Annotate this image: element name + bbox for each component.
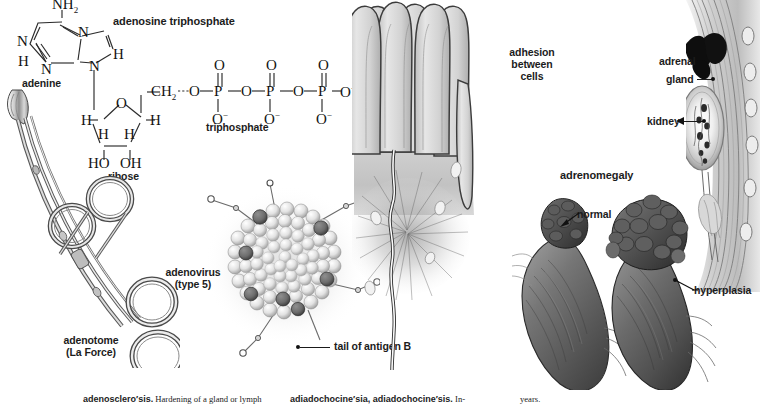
- adenotome-figure: [0, 78, 180, 368]
- footer-column-3: years.: [520, 394, 540, 404]
- normal-leader-arrow: [558, 210, 580, 228]
- adhesion-label-line3: cells: [494, 71, 570, 83]
- adenotome-label-line2: (La Force): [46, 347, 136, 359]
- adenovirus-label-line2: (type 5): [148, 279, 238, 291]
- kidney-label: kidney: [647, 116, 680, 128]
- footer-col2-text: In-: [453, 394, 465, 404]
- antigen-b-callout-line: [300, 347, 330, 348]
- adhesion-between-cells-figure: [352, 0, 497, 370]
- adrenomegaly-hyperplasia-label: hyperplasia: [694, 285, 751, 297]
- footer-col1-text: Hardening of a gland or lymph: [153, 394, 261, 404]
- adenovirus-label-line1: adenovirus: [148, 267, 238, 279]
- hyperplasia-leader-line: [674, 277, 698, 295]
- adrenal-label-line2: gland: [666, 74, 694, 86]
- adenotome-svg: [0, 78, 180, 368]
- footer-col1-headword: adenosclero′sis.: [83, 394, 153, 404]
- adenotome-label-line1: adenotome: [46, 335, 136, 347]
- atp-figure-title: adenosine triphosphate: [113, 16, 235, 28]
- kidney-arrowhead: [676, 115, 690, 127]
- adrenal-gland-leader-dot: [711, 77, 715, 81]
- adrenal-label-line1: adrenal: [659, 56, 696, 68]
- adhesion-svg: [352, 0, 497, 370]
- adhesion-label-line1: adhesion: [494, 47, 570, 59]
- footer-col2-headword: adiadochocine′sia, adiadochocine′sis.: [290, 394, 453, 404]
- footer-column-2: adiadochocine′sia, adiadochocine′sis. In…: [290, 394, 465, 404]
- atp-label-triphosphate: triphosphate: [206, 122, 268, 134]
- adrenomegaly-normal-label: normal: [577, 209, 611, 221]
- footer-column-1: adenosclero′sis. Hardening of a gland or…: [83, 394, 262, 404]
- dictionary-text-footer: adenosclero′sis. Hardening of a gland or…: [0, 392, 760, 412]
- adhesion-label-line2: between: [494, 59, 570, 71]
- kidney-leader-dot: [702, 119, 706, 123]
- dictionary-illustration-page: NH2 N N H N H N adenine O H H H H HO OH …: [0, 0, 760, 412]
- adrenomegaly-title: adrenomegaly: [560, 170, 633, 182]
